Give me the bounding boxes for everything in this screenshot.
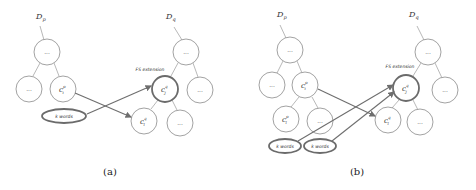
- tree-label-dq: Dq: [165, 12, 176, 23]
- panel-a: Dp ... ... cpi k words Dq ... FS extensi…: [16, 12, 213, 177]
- target-tree-dq: Dq ... FS extension cqj ... cql ...: [131, 12, 213, 136]
- concept-node-cj-q: [393, 75, 419, 101]
- node-ellipsis: ...: [197, 86, 203, 93]
- panel-b: Dp ... ... cpi cpl ... k words k words D…: [259, 10, 458, 177]
- node-ellipsis: ...: [183, 48, 189, 55]
- fs-extension-label: FS extension: [136, 67, 165, 72]
- source-tree-dp: Dp ... ... cpi: [16, 12, 76, 102]
- k-words-label: k words: [276, 144, 294, 149]
- node-ellipsis: ...: [287, 46, 293, 53]
- node-ellipsis: ...: [417, 118, 423, 125]
- node-ellipsis: ...: [177, 119, 183, 126]
- node-ellipsis: ...: [425, 48, 431, 55]
- caption-b: (b): [350, 166, 364, 177]
- k-words-label: k words: [311, 144, 329, 149]
- node-ellipsis: ...: [44, 48, 50, 55]
- caption-a: (a): [103, 166, 117, 177]
- fs-extension-label: FS extension: [386, 64, 415, 69]
- concept-node-cl-p: [273, 106, 299, 132]
- diagram-canvas: Dp ... ... cpi k words Dq ... FS extensi…: [0, 0, 476, 190]
- tree-label-dp: Dp: [35, 12, 46, 23]
- concept-node-ci-p: [50, 76, 76, 102]
- tree-label-dq: Dq: [408, 10, 419, 21]
- target-tree-dq: Dq ... FS extension cqj ... cql ...: [375, 10, 458, 135]
- concept-node-cl-q: [375, 107, 401, 133]
- node-ellipsis: ...: [442, 86, 448, 93]
- tree-label-dp: Dp: [276, 10, 287, 21]
- k-words-label: k words: [55, 114, 73, 119]
- source-tree-dp: Dp ... ... cpi cpl ...: [259, 10, 333, 134]
- concept-node-cj-q: [152, 76, 178, 102]
- node-ellipsis: ...: [317, 117, 323, 124]
- concept-node-ci-p: [292, 72, 318, 98]
- node-ellipsis: ...: [269, 81, 275, 88]
- concept-node-cl-q: [131, 108, 157, 134]
- node-ellipsis: ...: [26, 85, 32, 92]
